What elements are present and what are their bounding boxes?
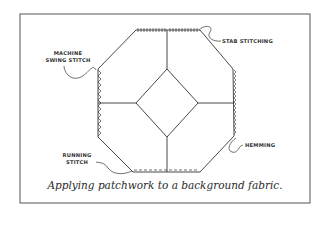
label-running-stitch: RUNNING STITCH (55, 152, 99, 165)
label-hemming: HEMMING (245, 142, 275, 149)
seam-lines (98, 30, 234, 172)
label-stab-stitching: STAB STITCHING (222, 38, 273, 45)
center-diamond (136, 69, 198, 137)
octagon-patch (98, 30, 234, 172)
figure-caption: Applying patchwork to a background fabri… (20, 179, 310, 191)
label-machine-swing-stitch: MACHINE SWING STITCH (38, 50, 98, 63)
hemming-marks (234, 70, 236, 134)
label-line: SWING STITCH (38, 57, 98, 64)
label-line: STITCH (55, 159, 99, 166)
